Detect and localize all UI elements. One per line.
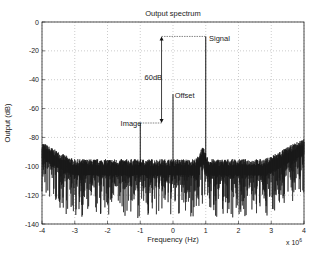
svg-text:-4: -4 <box>39 227 45 234</box>
svg-text:2: 2 <box>237 227 241 234</box>
svg-text:-40: -40 <box>29 76 39 83</box>
svg-text:-120: -120 <box>25 192 39 199</box>
annotation-offset: Offset <box>175 91 196 100</box>
x-multiplier: x 106 <box>286 237 302 246</box>
y-axis-label: Output (dB) <box>3 103 12 142</box>
svg-text:1: 1 <box>204 227 208 234</box>
svg-text:0: 0 <box>171 227 175 234</box>
output-spectrum-chart: Output spectrum SignalImageOffset60dB -4… <box>0 0 320 262</box>
svg-text:-2: -2 <box>104 227 110 234</box>
svg-text:-1: -1 <box>137 227 143 234</box>
svg-text:4: 4 <box>302 227 306 234</box>
svg-text:-140: -140 <box>25 221 39 228</box>
svg-text:-20: -20 <box>29 47 39 54</box>
svg-text:3: 3 <box>269 227 273 234</box>
x-axis-label: Frequency (Hz) <box>147 235 199 244</box>
svg-text:-3: -3 <box>72 227 78 234</box>
annotations: SignalImageOffset60dB <box>121 34 231 128</box>
svg-text:-80: -80 <box>29 134 39 141</box>
annotation-signal: Signal <box>209 34 230 43</box>
annotation-60db: 60dB <box>145 73 163 82</box>
annotation-image: Image <box>121 119 142 128</box>
chart-title: Output spectrum <box>145 9 200 18</box>
svg-text:-60: -60 <box>29 105 39 112</box>
svg-text:0: 0 <box>35 19 39 26</box>
svg-text:-100: -100 <box>25 163 39 170</box>
